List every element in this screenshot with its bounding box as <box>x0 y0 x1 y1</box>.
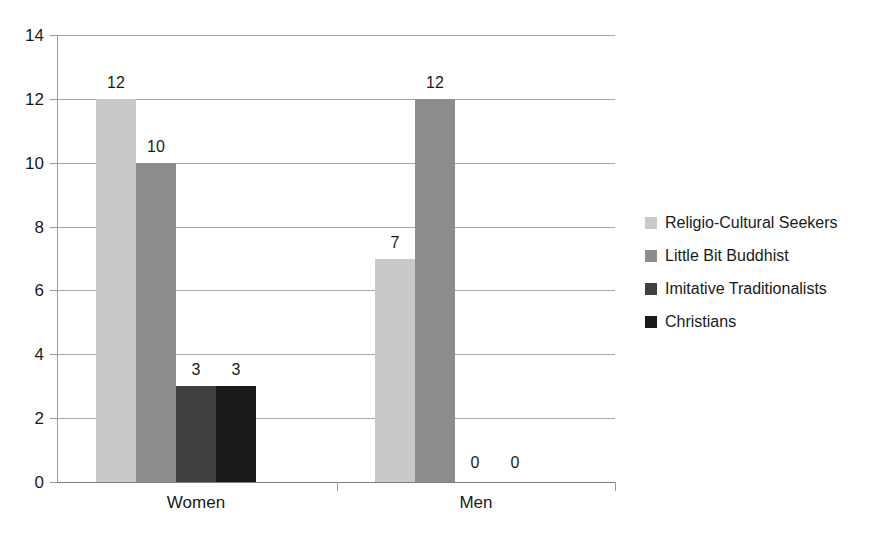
bar-chart: 02468101214 12103371200 WomenMen Religio… <box>0 0 877 536</box>
legend: Religio-Cultural SeekersLittle Bit Buddh… <box>645 206 870 338</box>
bar-value-label: 3 <box>216 362 256 378</box>
bar-value-label: 0 <box>455 455 495 471</box>
bar-value-label: 7 <box>375 235 415 251</box>
y-axis-tick-label: 14 <box>0 27 44 44</box>
legend-item[interactable]: Religio-Cultural Seekers <box>645 206 870 239</box>
bar[interactable] <box>136 163 176 482</box>
x-axis-tick <box>337 482 338 491</box>
x-axis-tick <box>615 482 616 491</box>
y-axis-tick <box>50 354 57 355</box>
y-axis-tick <box>50 290 57 291</box>
y-axis-tick-label: 10 <box>0 155 44 172</box>
gridline <box>57 482 615 483</box>
bar-value-label: 12 <box>415 75 455 91</box>
bar[interactable] <box>216 386 256 482</box>
bar-value-label: 12 <box>96 75 136 91</box>
y-axis-tick <box>50 99 57 100</box>
legend-label: Christians <box>665 314 736 330</box>
legend-swatch-icon <box>645 250 657 262</box>
y-axis-tick-label: 2 <box>0 410 44 427</box>
legend-item[interactable]: Little Bit Buddhist <box>645 239 870 272</box>
bar-value-label: 3 <box>176 362 216 378</box>
bar[interactable] <box>415 99 455 482</box>
bar[interactable] <box>96 99 136 482</box>
legend-label: Religio-Cultural Seekers <box>665 215 838 231</box>
bar[interactable] <box>176 386 216 482</box>
y-axis-tick-label: 4 <box>0 346 44 363</box>
y-axis-tick <box>50 227 57 228</box>
y-axis-tick-label: 12 <box>0 91 44 108</box>
y-axis-tick <box>50 35 57 36</box>
legend-label: Imitative Traditionalists <box>665 281 827 297</box>
bar-value-label: 10 <box>136 139 176 155</box>
y-axis-tick-label: 8 <box>0 219 44 236</box>
y-axis-tick-label: 6 <box>0 282 44 299</box>
x-axis-group-label-men: Men <box>416 494 536 511</box>
plot-area <box>57 35 615 482</box>
legend-item[interactable]: Christians <box>645 305 870 338</box>
bar-value-label: 0 <box>495 455 535 471</box>
bar[interactable] <box>375 259 415 483</box>
y-axis-tick <box>50 418 57 419</box>
legend-swatch-icon <box>645 217 657 229</box>
y-axis-tick <box>50 482 57 483</box>
legend-swatch-icon <box>645 283 657 295</box>
legend-item[interactable]: Imitative Traditionalists <box>645 272 870 305</box>
legend-swatch-icon <box>645 316 657 328</box>
y-axis-tick <box>50 163 57 164</box>
y-axis-tick-label: 0 <box>0 474 44 491</box>
x-axis-group-label-women: Women <box>136 494 256 511</box>
legend-label: Little Bit Buddhist <box>665 248 789 264</box>
